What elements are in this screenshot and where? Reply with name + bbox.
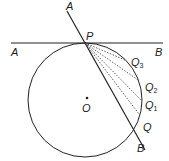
label-q: Q (143, 121, 152, 133)
label-a-top: A (65, 0, 73, 12)
secant-line (67, 11, 145, 150)
label-b-bottom: B (137, 142, 144, 154)
label-o: O (82, 102, 91, 114)
label-a-left: A (10, 46, 18, 58)
chord-p-q1 (85, 43, 141, 100)
label-b-right: B (155, 46, 162, 58)
label-q1: Q1 (145, 99, 158, 112)
chord-p-mid (85, 43, 139, 114)
center-point (86, 97, 89, 100)
label-q3: Q3 (131, 56, 144, 69)
secant-tangent-diagram: A A P B Q3 Q2 Q1 Q B O (0, 0, 169, 161)
dotted-chords (85, 43, 141, 114)
label-q2: Q2 (145, 81, 158, 94)
label-p: P (86, 30, 94, 42)
